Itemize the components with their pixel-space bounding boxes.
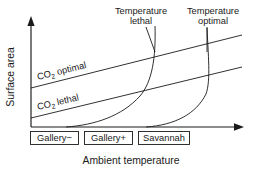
label-co2-lethal: CO2 lethal — [36, 92, 80, 113]
zone-savannah-label: Savannah — [143, 133, 185, 143]
label-temperature-optimal-line1: Temperature — [187, 6, 239, 16]
label-co2-lethal-text: CO — [36, 99, 52, 112]
svg-text:CO2 lethal: CO2 lethal — [36, 92, 80, 113]
label-temperature-optimal: Temperature optimal — [187, 6, 239, 26]
label-co2-optimal-text: CO — [36, 69, 52, 82]
figure-container: Temperature lethal Temperature optimal C… — [0, 0, 262, 172]
x-axis-title: Ambient temperature — [82, 155, 179, 166]
zone-gallery-minus-label: Gallery− — [37, 133, 72, 143]
zone-savannah: Savannah — [139, 132, 190, 145]
zone-gallery-plus-label: Gallery+ — [91, 133, 126, 143]
y-axis-title: Surface area — [5, 47, 16, 107]
y-axis — [27, 16, 34, 127]
x-axis — [31, 123, 244, 131]
line-co2-optimal — [31, 35, 242, 88]
leader-temperature-lethal — [146, 27, 155, 52]
zone-gallery-plus: Gallery+ — [85, 132, 133, 145]
curve-temperature-lethal — [66, 26, 155, 127]
label-temperature-lethal-line2: lethal — [130, 16, 152, 26]
label-temperature-lethal-line1: Temperature — [115, 6, 167, 16]
label-co2-lethal-suffix: lethal — [53, 92, 79, 108]
label-temperature-lethal: Temperature lethal — [115, 6, 167, 26]
zone-gallery-minus: Gallery− — [31, 132, 79, 145]
label-temperature-optimal-line2: optimal — [198, 16, 228, 26]
